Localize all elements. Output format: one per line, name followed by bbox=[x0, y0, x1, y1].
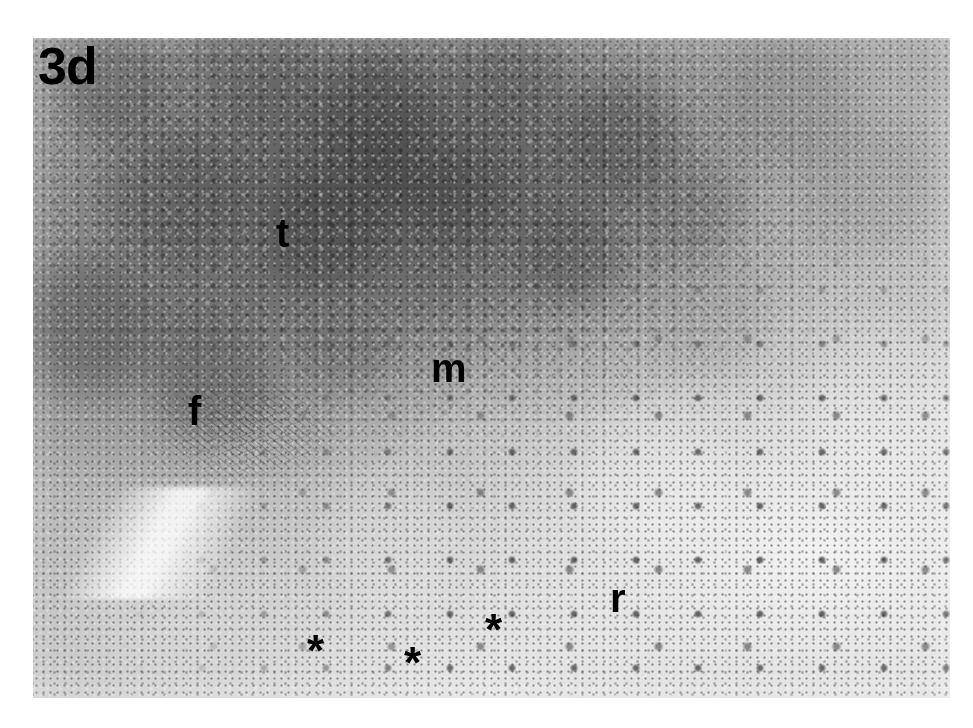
label-r: r bbox=[610, 578, 626, 618]
micrograph-plate bbox=[33, 38, 950, 698]
figure-root: 3dtmfr*** bbox=[0, 0, 973, 728]
label-f: f bbox=[188, 391, 201, 431]
label-t: t bbox=[276, 213, 289, 253]
marker-asterisk-1: * bbox=[307, 629, 324, 673]
label-m: m bbox=[431, 348, 467, 388]
plate-sparse-dark-dots bbox=[33, 38, 950, 698]
panel-label: 3d bbox=[38, 40, 97, 92]
marker-asterisk-2: * bbox=[404, 641, 421, 685]
marker-asterisk-3: * bbox=[485, 608, 502, 652]
plate-bright-streak-artifact bbox=[33, 487, 299, 599]
